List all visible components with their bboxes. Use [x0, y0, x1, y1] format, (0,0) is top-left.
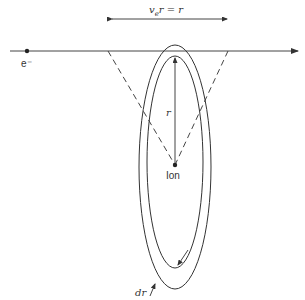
dr-arrow-inner: [178, 250, 188, 265]
electron-dot: [25, 49, 29, 53]
radius-label: r: [166, 108, 171, 118]
impact-parameter-label: ver = r: [149, 5, 183, 18]
shell-thickness-label: dr: [135, 288, 146, 298]
ion-dot: [173, 163, 177, 167]
electron-label: e⁻: [21, 59, 32, 69]
equation-rest: r = r: [159, 4, 183, 15]
dr-arrow-outer: [150, 284, 155, 296]
ion-label: Ion: [166, 171, 180, 181]
diagram-canvas: [0, 0, 305, 300]
